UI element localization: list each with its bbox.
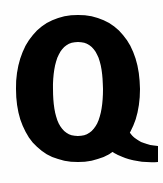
letter-q-icon <box>0 0 163 183</box>
letter-canvas: Q <box>0 0 163 183</box>
